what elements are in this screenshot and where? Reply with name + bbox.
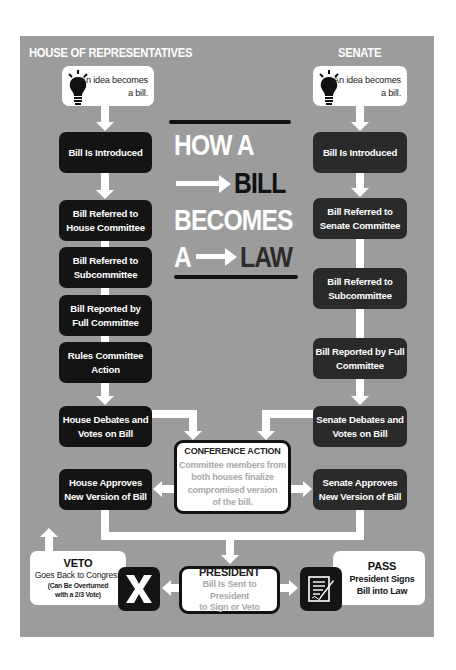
house-step-introduced: Bill Is Introduced — [59, 132, 152, 173]
arrow-right-icon — [289, 580, 298, 596]
pass-line-2: Bill into Law — [357, 585, 407, 597]
connector — [356, 106, 364, 123]
title-rule-bottom — [174, 275, 298, 279]
connector — [226, 532, 234, 556]
arrow-right-icon — [219, 175, 231, 193]
pass-title: PASS — [368, 559, 396, 573]
senate-idea-text: An idea becomes a bill. — [333, 74, 401, 100]
arrow-left-icon — [162, 580, 171, 596]
arrow-down-icon — [96, 190, 114, 199]
connector — [162, 485, 174, 493]
conference-action-box: CONFERENCE ACTION Committee members from… — [174, 440, 291, 514]
pass-icon-box — [300, 567, 342, 611]
arrow-left-icon — [153, 481, 162, 497]
senate-idea-box: An idea becomes a bill. — [313, 66, 407, 106]
senate-header: SENATE — [338, 46, 381, 60]
house-step-subcommittee: Bill Referred toSubcommittee — [59, 247, 152, 288]
arrow-down-icon — [221, 555, 239, 564]
president-title: PRESIDENT — [199, 566, 260, 579]
veto-box: VETO Goes Back to Congress (Can Be Overt… — [30, 551, 126, 605]
signed-document-icon — [305, 573, 337, 605]
house-header: HOUSE OF REPRESENTATIVES — [29, 46, 192, 60]
senate-step-approves: Senate ApprovesNew Version of Bill — [313, 469, 407, 510]
title-a: A — [174, 242, 191, 272]
connector — [356, 173, 364, 189]
title-becomes: BECOMES — [174, 205, 293, 235]
arrow-down-icon — [351, 188, 369, 197]
arrow-down-icon — [184, 431, 202, 440]
title-how-a: HOW A — [174, 130, 254, 160]
connector — [101, 383, 109, 397]
connector — [356, 379, 364, 397]
house-idea-text: An idea becomes a bill. — [80, 74, 148, 100]
arrow-down-icon — [351, 122, 369, 131]
veto-x-icon-box — [118, 567, 160, 611]
senate-step-subcommittee: Bill Referred toSubcommittee — [313, 268, 407, 309]
connector — [356, 239, 364, 268]
president-body: Bill Is Sent to President to Sign or Vet… — [182, 579, 277, 614]
title-rule-top — [169, 120, 291, 124]
arrow-down-icon — [96, 396, 114, 405]
arrow-down-icon — [96, 122, 114, 131]
connector — [45, 536, 53, 552]
conference-body: Committee members from both houses final… — [179, 459, 286, 509]
connector — [101, 173, 109, 191]
house-step-full-committee: Bill Reported byFull Committee — [59, 295, 152, 336]
title-arrow-shaft — [196, 254, 226, 259]
veto-note-2: with a 2/3 Vote) — [55, 590, 101, 599]
arrow-down-icon — [351, 396, 369, 405]
senate-step-full-committee: Bill Reported by FullCommittee — [313, 338, 407, 379]
house-step-rules: Rules CommitteeAction — [59, 342, 152, 383]
conference-title: CONFERENCE ACTION — [184, 445, 280, 459]
title-bill: BILL — [234, 168, 285, 198]
senate-step-introduced: Bill Is Introduced — [313, 132, 407, 173]
pass-box: PASS President Signs Bill into Law — [333, 551, 425, 605]
veto-note-1: (Can Be Overturned — [48, 581, 109, 590]
pass-line-1: President Signs — [349, 573, 414, 585]
x-icon — [124, 573, 154, 605]
senate-step-committee: Bill Referred toSenate Committee — [313, 198, 407, 239]
veto-title: VETO — [64, 557, 93, 570]
arrow-right-icon — [225, 248, 237, 266]
senate-step-debates: Senate Debates andVotes on Bill — [313, 406, 407, 447]
connector — [101, 288, 109, 295]
arrow-up-icon — [40, 528, 58, 537]
connector — [189, 410, 197, 432]
house-step-committee: Bill Referred toHouse Committee — [59, 200, 152, 241]
title-law: LAW — [240, 242, 292, 272]
connector — [262, 410, 270, 432]
connector — [356, 309, 364, 338]
house-step-approves: House ApprovesNew Version of Bill — [59, 469, 152, 510]
president-box: PRESIDENT Bill Is Sent to President to S… — [179, 566, 280, 614]
house-step-debates: House Debates andVotes on Bill — [59, 406, 152, 447]
arrow-down-icon — [257, 431, 275, 440]
arrow-right-icon — [303, 481, 312, 497]
title-arrow-shaft — [176, 181, 220, 186]
house-idea-box: An idea becomes a bill. — [62, 66, 154, 106]
veto-text: Goes Back to Congress — [35, 570, 122, 581]
connector — [101, 106, 109, 123]
